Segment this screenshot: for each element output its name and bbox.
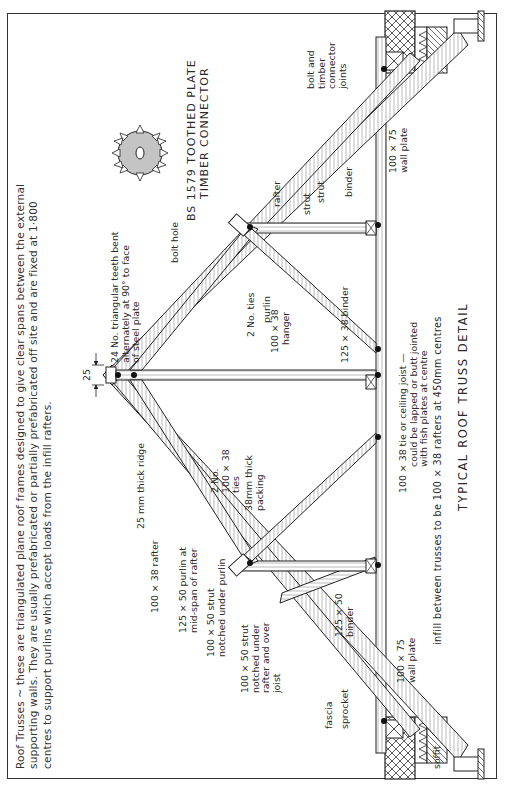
teeth-note: 24 No. triangular teeth bent alternately… <box>110 232 142 364</box>
binder-right-label: binder <box>344 167 355 197</box>
tie-joist-label: 100 × 38 tie or ceiling joist — could be… <box>398 322 430 493</box>
binder-centre-label: 125 × 38 binder <box>340 286 351 363</box>
bolt-hole-label: bolt hole <box>170 222 181 263</box>
packing-label: 38mm thick packing <box>244 455 265 511</box>
hanger <box>116 370 376 380</box>
strut-right-lower-label: strut <box>316 181 327 203</box>
wall-plate-right-label: 100 × 75 wall plate <box>388 128 409 173</box>
wall-plate-left-label: 100 × 75 wall plate <box>396 638 417 683</box>
right-vertical-strut <box>240 223 376 233</box>
hanger-label: 100 × 38 hanger <box>270 309 291 353</box>
infill-note: infill between trusses to be 100 × 38 ra… <box>432 316 443 645</box>
sprocket-label: sprocket <box>340 689 351 729</box>
ridge-board <box>106 367 116 383</box>
ties-right-label: 2 No. ties <box>246 293 257 337</box>
rafter-label: 100 × 38 rafter <box>150 540 161 613</box>
connector-title: BS 1579 TOOTHED PLATE TIMBER CONNECTOR <box>186 59 211 221</box>
ridge-dimension <box>92 353 104 397</box>
ties-left-label: 2 No. 100 × 38 ties <box>210 449 242 493</box>
bolt-joints-label: bolt and timber connector joints <box>306 42 348 89</box>
right-tie <box>130 225 258 370</box>
toothed-plate-connector <box>112 125 168 181</box>
tie-beam <box>376 37 386 753</box>
fascia-label: fascia <box>324 702 335 729</box>
rafter-right-label: rafter <box>272 181 283 207</box>
strut-joist-label: 100 × 50 strut notched under rafter and … <box>240 622 282 693</box>
binders <box>366 221 376 573</box>
soffit-label: soffit <box>432 746 443 769</box>
rotated-page: Roof Trusses ~ these are triangulated pl… <box>0 0 509 793</box>
strut-purlin-label: 100 × 50 strut notched under purlin <box>206 559 227 657</box>
landscape-sheet: Roof Trusses ~ these are triangulated pl… <box>0 0 509 793</box>
right-rafter-lower <box>112 53 420 377</box>
left-vertical-strut <box>240 561 376 571</box>
strut-right-upper-label: strut <box>302 193 313 215</box>
right-diagonal <box>244 229 376 353</box>
ridge-gap-dimension: 25 <box>82 369 93 381</box>
binder-left-label: 125 × 50 binder <box>334 593 355 637</box>
purlin-label: 125 × 50 purlin at mid-span of rafter <box>178 547 199 633</box>
drawing-title: TYPICAL ROOF TRUSS DETAIL <box>456 303 470 511</box>
ridge-label: 25 mm thick ridge <box>136 443 147 529</box>
